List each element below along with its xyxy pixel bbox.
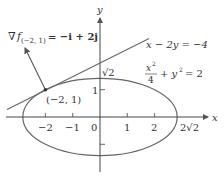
x-tick-label-1: 1 (124, 122, 130, 133)
y-axis-label: y (96, 4, 103, 15)
y-tick-label-sqrt2: √2 (102, 67, 115, 78)
y-tick-label-1: 1 (92, 85, 98, 96)
tangent-point (44, 88, 48, 92)
svg-text:2: 2 (152, 60, 156, 67)
point-label: (−2, 1) (46, 94, 81, 105)
svg-text:∇: ∇ (8, 30, 16, 43)
x-tick-label-2sqrt2: 2√2 (180, 122, 199, 133)
diagram-canvas: x y −2 −1 0 1 2 2√2 1 √2 (−2, 1) ∇ f (−2… (0, 0, 224, 177)
x-tick-label-0: 0 (91, 122, 97, 133)
svg-text:2: 2 (179, 66, 183, 73)
gradient-label: ∇ f (−2, 1) = −i + 2j (8, 30, 98, 45)
x-tick-label--1: −1 (65, 122, 80, 133)
ellipse-equation-label: x 2 4 + y 2 = 2 (145, 60, 203, 85)
gradient-vector (25, 48, 45, 90)
svg-text:= −i + 2j: = −i + 2j (48, 31, 98, 42)
x-tick-label--2: −2 (38, 122, 53, 133)
svg-text:x: x (146, 63, 151, 73)
x-axis-label: x (212, 112, 218, 123)
svg-text:+ y: + y (160, 68, 178, 79)
svg-text:4: 4 (148, 75, 154, 85)
tangent-equation-label: x − 2y = −4 (146, 39, 208, 50)
x-tick-label-2: 2 (151, 122, 157, 133)
svg-text:= 2: = 2 (185, 68, 203, 79)
svg-text:(−2, 1): (−2, 1) (21, 37, 46, 45)
